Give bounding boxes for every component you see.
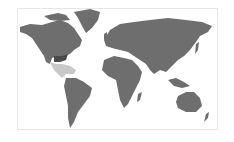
australia	[176, 92, 202, 112]
southeast-asia-islands	[168, 78, 190, 88]
africa	[102, 56, 142, 108]
japan	[195, 42, 199, 54]
arctic-islands	[44, 13, 70, 21]
greenland	[74, 9, 100, 33]
north-america	[20, 20, 82, 64]
new-zealand	[204, 112, 209, 122]
world-map	[0, 0, 234, 142]
south-america	[64, 78, 92, 128]
central-america-highlight	[50, 62, 76, 78]
madagascar	[137, 92, 142, 102]
